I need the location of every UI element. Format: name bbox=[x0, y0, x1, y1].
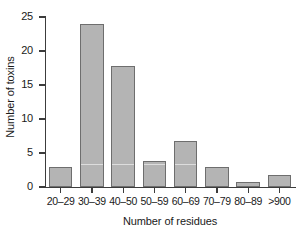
x-tick-label: 60–69 bbox=[170, 195, 201, 208]
x-tick-mark bbox=[60, 188, 61, 193]
x-tick-label: 80–89 bbox=[233, 195, 264, 208]
x-tick-mark bbox=[154, 188, 155, 193]
x-tick-label: 50–59 bbox=[139, 195, 170, 208]
x-tick-label: 40–50 bbox=[108, 195, 139, 208]
x-axis-title: Number of residues bbox=[45, 214, 295, 228]
x-tick-label: 20–29 bbox=[45, 195, 76, 208]
x-tick-label: 70–79 bbox=[201, 195, 232, 208]
x-tick-mark bbox=[216, 188, 217, 193]
chart-figure: Number of toxins 0510152025 20–2930–3940… bbox=[0, 0, 307, 234]
x-tick-label: >900 bbox=[264, 195, 295, 208]
x-tick-mark bbox=[91, 188, 92, 193]
x-tick-mark bbox=[279, 188, 280, 193]
x-tick-mark bbox=[123, 188, 124, 193]
x-tick-mark bbox=[248, 188, 249, 193]
x-tick-label: 30–39 bbox=[76, 195, 107, 208]
x-axis-ticks: 20–2930–3940–5050–5960–6970–7980–89>900 bbox=[0, 0, 307, 234]
x-tick-mark bbox=[185, 188, 186, 193]
